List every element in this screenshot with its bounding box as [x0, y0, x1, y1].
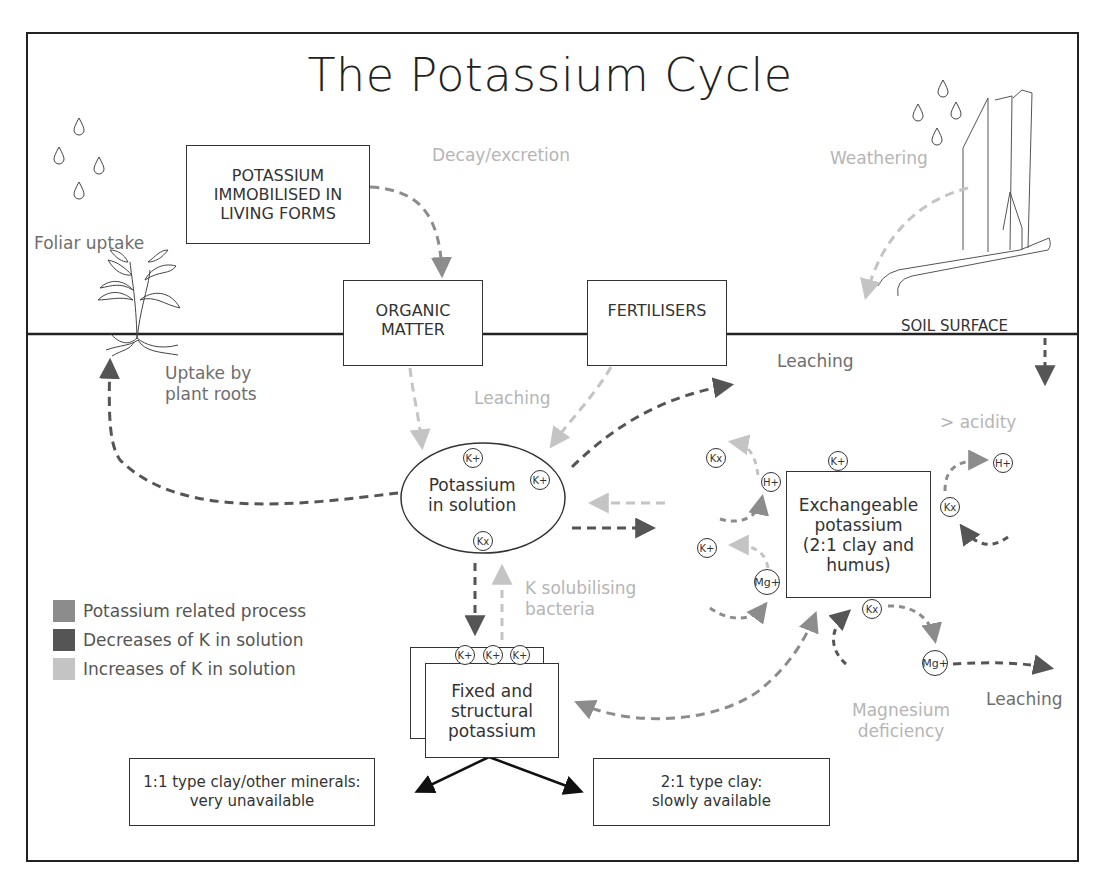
k-bacteria-label: K solubilising bacteria [525, 578, 636, 620]
ion-k-plus: K+ [455, 645, 475, 665]
ion-k-plus: K+ [828, 451, 848, 471]
ion-k-plus: K+ [483, 645, 503, 665]
potassium-cycle-diagram: The Potassium Cycle [0, 0, 1100, 878]
ion-h-plus: H+ [761, 472, 781, 492]
fixed-box: Fixed and structural potassium [425, 663, 559, 758]
ion-mg-plus: Mg+ [922, 650, 948, 676]
ion-k-plus: K+ [530, 470, 550, 490]
ion-mg-plus: Mg+ [754, 569, 780, 595]
legend-swatch-decreases [53, 629, 75, 651]
ion-kx: Kx [706, 448, 726, 468]
clay-11-box: 1:1 type clay/other minerals: very unava… [129, 758, 375, 826]
leaching-bottom-label: Leaching [986, 689, 1062, 709]
legend-item-decreases: Decreases of K in solution [53, 625, 306, 654]
decay-arrow [370, 187, 442, 274]
plant-icon [98, 250, 180, 356]
immobilised-box: POTASSIUM IMMOBILISED IN LIVING FORMS [186, 145, 370, 244]
solution-label: Potassium in solution [428, 475, 516, 515]
legend-swatch-increases [53, 658, 75, 680]
ion-h-plus: H+ [993, 453, 1013, 473]
legend-swatch-related [53, 600, 75, 622]
ion-kx: Kx [940, 497, 960, 517]
organic-to-solution-arrow [410, 368, 422, 446]
ion-kx: Kx [862, 599, 882, 619]
foliar-uptake-label: Foliar uptake [34, 233, 144, 253]
mg-deficiency-label: Magnesium deficiency [852, 700, 950, 742]
raindrops-left-icon [54, 118, 104, 199]
decay-label: Decay/excretion [432, 145, 570, 165]
raindrops-right-icon [913, 80, 961, 145]
clay-21-box: 2:1 type clay: slowly available [593, 758, 830, 826]
fixed-to-clay21-arrow [489, 757, 580, 791]
weathering-label: Weathering [830, 148, 928, 168]
ion-k-plus: K+ [510, 645, 530, 665]
ion-k-plus: K+ [697, 538, 717, 558]
fixed-exchange-arrow [578, 615, 815, 719]
leaching-top-label: Leaching [777, 351, 853, 371]
organic-matter-box: ORGANIC MATTER [343, 280, 483, 366]
soil-surface-label: SOIL SURFACE [901, 316, 1008, 336]
rock-icon [878, 90, 1050, 296]
legend: Potassium related process Decreases of K… [53, 596, 306, 683]
leaching-mid-label: Leaching [474, 388, 550, 408]
fertilisers-to-solution-arrow [552, 367, 611, 445]
uptake-roots-label: Uptake by plant roots [165, 363, 257, 405]
fixed-to-clay11-arrow [418, 757, 489, 791]
fertilisers-box: FERTILISERS [587, 280, 727, 366]
ion-kx: Kx [473, 531, 493, 551]
legend-item-increases: Increases of K in solution [53, 654, 306, 683]
acidity-label: > acidity [940, 412, 1016, 432]
exchangeable-box: Exchangeable potassium (2:1 clay and hum… [786, 471, 931, 598]
legend-item-related: Potassium related process [53, 596, 306, 625]
ion-k-plus: K+ [463, 448, 483, 468]
